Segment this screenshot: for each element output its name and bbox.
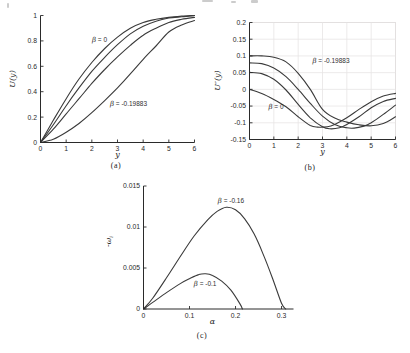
x-tick-label: 6 bbox=[193, 145, 197, 152]
annotation-a: β = -0.19883 bbox=[109, 100, 148, 108]
y-tick-label: 0.8 bbox=[28, 37, 38, 44]
y-tick-label: 0.1 bbox=[237, 52, 247, 59]
curve-a-3 bbox=[41, 17, 195, 142]
plot-c: 00.10.20.300.0050.010.015α-ωiβ = -0.16β … bbox=[104, 182, 294, 325]
annotation-c: β = -0.16 bbox=[217, 197, 245, 205]
annotation-c: β = -0.1 bbox=[193, 280, 217, 288]
clipped-text-fragment bbox=[7, 3, 9, 8]
y-tick-label: 0.15 bbox=[233, 36, 246, 43]
y-tick-label: 0.2 bbox=[237, 19, 247, 26]
yaxis-label-a: U(y) bbox=[8, 70, 17, 88]
y-tick-label: -0.15 bbox=[231, 136, 247, 143]
clipped-text-fragment bbox=[202, 0, 213, 2]
plots-svg: 012345600.20.40.60.81yU(y)β = 0β = -0.19… bbox=[0, 0, 410, 353]
annotation-b: β = 0 bbox=[267, 103, 283, 111]
y-tick-label: -0.05 bbox=[231, 102, 247, 109]
caption-c: (c) bbox=[197, 331, 207, 340]
y-tick-label: 0 bbox=[33, 139, 37, 146]
y-tick-label: 0.005 bbox=[123, 264, 140, 271]
x-tick-label: 0 bbox=[248, 142, 252, 149]
x-tick-label: 2 bbox=[90, 145, 94, 152]
yaxis-label-b: U″(y) bbox=[213, 70, 222, 91]
y-tick-label: 1 bbox=[33, 12, 37, 19]
annotation-a: β = 0 bbox=[91, 36, 107, 44]
plot-b: 0123456-0.15-0.1-0.0500.050.10.150.2yU″(… bbox=[213, 19, 398, 156]
x-tick-label: 5 bbox=[369, 142, 373, 149]
x-tick-label: 0 bbox=[142, 312, 146, 319]
curve-a-4 bbox=[41, 21, 195, 143]
xaxis-label-c: α bbox=[210, 317, 216, 326]
axes-a bbox=[41, 16, 195, 143]
annotation-b: β = -0.19883 bbox=[311, 57, 350, 65]
caption-b: (b) bbox=[305, 162, 316, 171]
clipped-text-fragment bbox=[231, 1, 236, 3]
x-tick-label: 4 bbox=[141, 145, 145, 152]
x-tick-label: 0.2 bbox=[231, 312, 241, 319]
curve-a-1 bbox=[41, 16, 195, 143]
x-tick-label: 0.3 bbox=[277, 312, 287, 319]
y-tick-label: 0.4 bbox=[28, 88, 38, 95]
x-tick-label: 0 bbox=[39, 145, 43, 152]
plot-a: 012345600.20.40.60.81yU(y)β = 0β = -0.19… bbox=[8, 12, 197, 159]
y-tick-label: 0.015 bbox=[123, 182, 140, 189]
caption-a: (a) bbox=[111, 160, 121, 169]
y-tick-label: 0.6 bbox=[28, 63, 38, 70]
x-tick-label: 5 bbox=[167, 145, 171, 152]
y-tick-label: 0 bbox=[242, 86, 246, 93]
y-tick-label: -0.1 bbox=[234, 119, 246, 126]
x-tick-label: 6 bbox=[394, 142, 398, 149]
yaxis-label-c: -ωi bbox=[104, 236, 114, 247]
x-tick-label: 0.1 bbox=[185, 312, 195, 319]
y-tick-label: 0.2 bbox=[28, 114, 38, 121]
clipped-text-fragment bbox=[251, 0, 258, 3]
curve-a-2 bbox=[41, 16, 195, 143]
y-tick-label: 0.05 bbox=[233, 69, 246, 76]
x-tick-label: 1 bbox=[272, 142, 276, 149]
x-tick-label: 4 bbox=[345, 142, 349, 149]
y-tick-label: 0.01 bbox=[127, 223, 140, 230]
xaxis-label-a: y bbox=[114, 150, 120, 159]
x-tick-label: 1 bbox=[64, 145, 68, 152]
xaxis-label-b: y bbox=[319, 147, 325, 156]
figure-canvas: 012345600.20.40.60.81yU(y)β = 0β = -0.19… bbox=[0, 0, 410, 353]
x-tick-label: 2 bbox=[296, 142, 300, 149]
y-tick-label: 0 bbox=[136, 305, 140, 312]
